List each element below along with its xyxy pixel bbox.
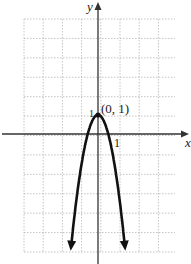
x-axis	[2, 131, 189, 138]
vertex-point	[95, 112, 100, 117]
grid	[24, 19, 175, 252]
y-axis-label: y	[87, 0, 93, 13]
right-arrow-icon	[120, 240, 129, 250]
vertex-label: (0, 1)	[101, 102, 129, 115]
x-tick-label: 1	[114, 137, 120, 149]
left-arrow-icon	[67, 240, 76, 250]
x-axis-label: x	[185, 136, 191, 149]
y-tick-label: 1	[89, 109, 94, 119]
y-axis-arrow-icon	[95, 2, 102, 10]
graph-canvas	[0, 0, 191, 264]
